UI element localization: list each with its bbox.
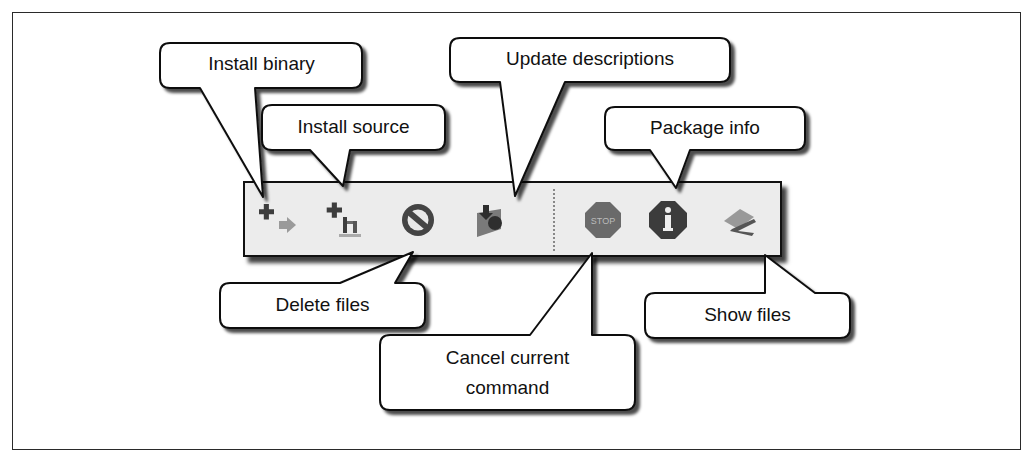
label-show-files: Show files <box>645 303 850 327</box>
label-cancel-line1: Cancel current <box>380 346 635 370</box>
label-update-descriptions: Update descriptions <box>450 47 730 71</box>
label-package-info: Package info <box>605 116 805 140</box>
label-install-binary: Install binary <box>160 52 363 76</box>
label-delete-files: Delete files <box>220 293 425 317</box>
label-install-source: Install source <box>262 115 445 139</box>
label-cancel-line2: command <box>380 376 635 400</box>
